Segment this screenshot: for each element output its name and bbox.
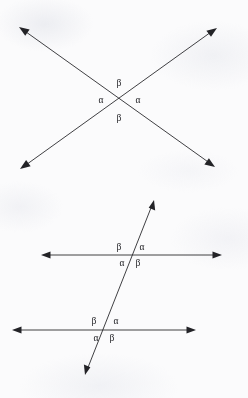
- lower-below-left-alpha: α: [94, 333, 99, 343]
- arrow-head-transversal-top-icon: [149, 200, 156, 211]
- upper-below-left-alpha: α: [120, 258, 125, 268]
- label-left-alpha: α: [99, 95, 104, 105]
- lower-above-left-beta: β: [92, 316, 97, 326]
- arrow-head-lower-left-icon: [12, 327, 22, 334]
- diagram-page: Angle relationships at line intersection…: [0, 0, 248, 398]
- lower-below-right-beta: β: [110, 333, 115, 343]
- label-bottom-beta: β: [117, 113, 122, 123]
- arrow-head-lower-right-icon: [187, 327, 197, 334]
- upper-below-right-beta: β: [136, 258, 141, 268]
- arrow-head-se-icon: [204, 158, 215, 167]
- transversal: [84, 200, 155, 375]
- arrow-head-upper-right-icon: [213, 252, 223, 259]
- line-nw-se-segment: [24, 31, 211, 165]
- upper-above-right-alpha: α: [140, 242, 145, 252]
- diagram-transversal-two-parallel-lines: β α α β β α α β: [12, 200, 222, 375]
- label-top-beta: β: [117, 78, 122, 88]
- arrow-head-nw-icon: [19, 27, 30, 36]
- transversal-segment: [87, 204, 153, 371]
- arrow-head-ne-icon: [206, 28, 217, 37]
- arrow-head-transversal-bottom-icon: [84, 365, 91, 376]
- lower-above-right-alpha: α: [114, 316, 119, 326]
- geometry-figure: Angle relationships at line intersection…: [0, 0, 248, 398]
- upper-above-left-beta: β: [117, 242, 122, 252]
- diagram-vertical-angles-x-crossing: β α α β: [19, 27, 217, 169]
- arrow-head-sw-icon: [20, 160, 31, 169]
- line-nw-se: [19, 27, 215, 167]
- label-right-alpha: α: [136, 95, 141, 105]
- arrow-head-upper-left-icon: [41, 252, 51, 259]
